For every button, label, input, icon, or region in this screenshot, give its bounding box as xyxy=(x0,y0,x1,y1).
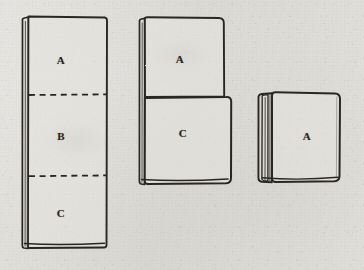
label-section-a-unfolded: A xyxy=(57,54,65,66)
label-section-a-fullyfolded: A xyxy=(303,130,311,142)
folding-diagram-figure: A B C A C A xyxy=(0,0,364,270)
strip-face xyxy=(28,17,108,249)
stage-half-folded xyxy=(139,17,231,184)
label-section-c-halffolded: C xyxy=(179,127,187,139)
halffold-upper-leaf-a xyxy=(145,17,225,97)
label-section-b-unfolded: B xyxy=(57,130,65,142)
label-section-a-halffolded: A xyxy=(176,53,184,65)
label-section-c-unfolded: C xyxy=(57,207,65,219)
stage-fully-folded xyxy=(258,92,340,182)
halffold-lower-leaf-c xyxy=(145,97,232,184)
